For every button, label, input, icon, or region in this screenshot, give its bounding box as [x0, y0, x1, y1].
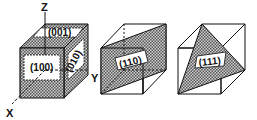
y-axis-label: Y: [91, 72, 99, 84]
z-axis-label: Z: [41, 1, 48, 13]
x-axis-label: X: [6, 107, 14, 119]
plane-label-001: (001): [48, 27, 71, 38]
cube-2-plane-110: (110): [101, 24, 166, 94]
miller-indices-diagram: (001) (100) (010) Z Y X (110): [0, 0, 257, 120]
cube-3-plane-111: (111): [178, 24, 245, 94]
plane-label-111: (111): [198, 55, 221, 68]
plane-label-100: (100): [30, 62, 53, 73]
cube-1-faces-100-010-001: (001) (100) (010) Z Y X: [6, 1, 99, 119]
